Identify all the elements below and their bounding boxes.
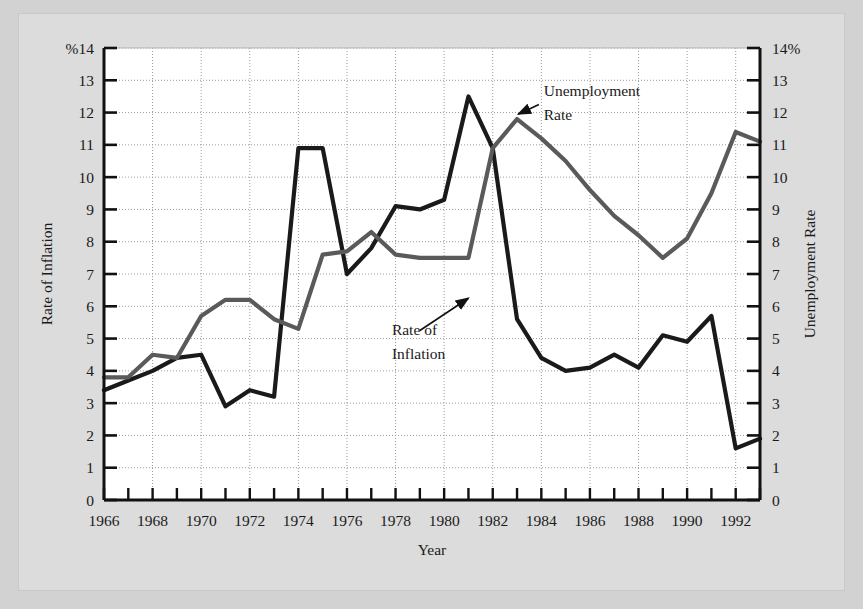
x-tick-label: 1974 [283,512,314,529]
x-tick-label: 1978 [380,512,411,529]
x-tick-label: 1986 [574,512,605,529]
inflation-unemployment-line-chart: 001122334455667788991010111112121313%141… [18,13,845,591]
y-tick-label-left: 7 [86,266,94,283]
annotation-text-line1: Rate of [392,321,438,338]
x-tick-label: 1972 [234,512,265,529]
plot-background [104,48,760,500]
y-tick-label-left: 2 [86,427,94,444]
y-tick-label-right: 9 [772,201,780,218]
y-tick-label-left: 11 [79,136,94,153]
y-tick-label-right: 13 [772,72,788,89]
y-tick-label-left: 8 [86,233,94,250]
y-axis-title-left: Rate of Inflation [38,223,55,326]
y-tick-label-right: 2 [772,427,780,444]
x-tick-label: 1966 [89,512,120,529]
y-tick-label-left: 10 [79,169,95,186]
annotation-text-line1: Unemployment [544,82,641,99]
y-tick-label-right: 11 [772,136,787,153]
x-tick-label: 1990 [672,512,703,529]
y-tick-label-right: 1 [772,459,780,476]
x-tick-label: 1968 [137,512,168,529]
y-tick-label-left: 6 [86,298,94,315]
y-tick-label-right: 14% [772,40,801,57]
chart-plot-area: 001122334455667788991010111112121313%141… [18,13,845,591]
x-tick-label: 1976 [331,512,362,529]
y-tick-label-left: 3 [86,395,94,412]
x-tick-label: 1970 [186,512,217,529]
y-tick-label-right: 6 [772,298,780,315]
y-tick-label-left: 1 [86,459,94,476]
x-tick-label: 1980 [429,512,460,529]
annotation-text-line2: Inflation [392,345,446,362]
y-tick-label-right: 7 [772,266,780,283]
y-tick-label-right: 0 [772,492,780,509]
y-tick-label-left: 9 [86,201,94,218]
x-axis-title: Year [418,541,447,558]
annotation-text-line2: Rate [544,106,573,123]
y-tick-label-right: 10 [772,169,788,186]
y-tick-label-left: 4 [86,362,94,379]
y-tick-label-left: %14 [66,40,95,57]
y-tick-label-left: 13 [79,72,95,89]
x-tick-label: 1992 [720,512,751,529]
y-tick-label-right: 8 [772,233,780,250]
x-tick-label: 1988 [623,512,654,529]
y-tick-label-right: 3 [772,395,780,412]
x-tick-label: 1984 [526,512,557,529]
plot-canvas [104,48,760,500]
y-tick-label-left: 5 [86,330,94,347]
y-tick-label-left: 12 [79,104,95,121]
y-tick-label-left: 0 [86,492,94,509]
y-tick-label-right: 5 [772,330,780,347]
y-axis-title-right: Unemployment Rate [801,210,818,339]
y-tick-label-right: 12 [772,104,788,121]
x-tick-label: 1982 [477,512,508,529]
y-tick-label-right: 4 [772,362,780,379]
figure-panel: 001122334455667788991010111112121313%141… [18,13,845,591]
